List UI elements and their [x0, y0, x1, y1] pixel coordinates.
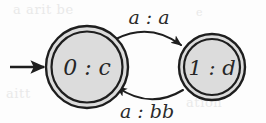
state-1-label: 1 : d — [188, 56, 235, 80]
transition-edge-0-to-1: a : a — [116, 6, 181, 45]
transition-edge-1-to-0: a : bb — [117, 87, 183, 122]
fst-diagram-canvas: a arit be e aitt ation a : a a : bb — [0, 0, 266, 123]
state-node-0[interactable]: 0 : c — [46, 26, 128, 108]
state-node-1[interactable]: 1 : d — [179, 34, 245, 100]
transition-arrow-0-to-1 — [116, 32, 181, 45]
fst-diagram-svg: a : a a : bb 0 : c 1 : d — [0, 0, 266, 123]
transition-label-1-to-0: a : bb — [120, 100, 174, 122]
state-0-label: 0 : c — [63, 55, 111, 80]
transition-label-0-to-1: a : a — [128, 6, 169, 28]
transition-arrow-1-to-0 — [117, 87, 183, 99]
